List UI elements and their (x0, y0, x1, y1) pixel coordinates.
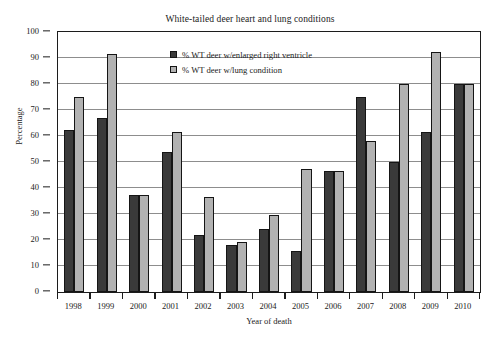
x-tick-label: 2002 (195, 301, 212, 311)
y-tick-label: 0 (35, 286, 39, 296)
x-tick-mark (447, 293, 448, 299)
y-tick-label: 60 (31, 130, 40, 140)
gridline (58, 187, 480, 188)
gridline (58, 83, 480, 84)
bar (431, 52, 441, 292)
legend-item[interactable]: % WT deer w/enlarged right ventricle (170, 47, 312, 62)
bar (74, 97, 84, 292)
x-tick-label: 2010 (454, 301, 471, 311)
y-tick-label: 70 (31, 104, 40, 114)
bar (421, 132, 431, 292)
bar (301, 169, 311, 292)
y-tick-mark (43, 212, 50, 213)
legend-item[interactable]: % WT deer w/lung condition (170, 62, 312, 77)
y-tick-label: 100 (26, 26, 39, 36)
x-axis-title: Year of death (57, 316, 481, 326)
x-tick-mark (57, 293, 58, 299)
bar (194, 235, 204, 292)
x-axis: 1998199920002001200220032004200520062007… (57, 293, 481, 315)
x-tick-mark (414, 293, 415, 299)
x-tick-label: 2009 (422, 301, 439, 311)
x-tick-label: 1998 (65, 301, 82, 311)
x-tick-mark (187, 293, 188, 299)
bar (162, 152, 172, 292)
bar (172, 132, 182, 292)
bar (399, 84, 409, 292)
bar (464, 84, 474, 292)
y-tick-mark (43, 56, 50, 57)
y-tick-mark (43, 290, 50, 291)
bar (97, 118, 107, 292)
legend-label: % WT deer w/lung condition (182, 65, 282, 75)
bar (139, 195, 149, 293)
y-tick-mark (43, 108, 50, 109)
bar (64, 130, 74, 293)
x-tick-label: 1999 (97, 301, 114, 311)
x-tick-mark (219, 293, 220, 299)
gridline (58, 135, 480, 136)
x-tick-label: 2000 (130, 301, 147, 311)
y-tick-mark (43, 30, 50, 31)
y-tick-label: 10 (31, 260, 40, 270)
bar (259, 229, 269, 292)
bar (226, 245, 236, 292)
gridline (58, 161, 480, 162)
bar (204, 197, 214, 292)
gridline (58, 109, 480, 110)
x-tick-mark (154, 293, 155, 299)
bar (129, 195, 139, 293)
bar (291, 251, 301, 292)
x-tick-mark (252, 293, 253, 299)
x-tick-label: 2004 (260, 301, 277, 311)
x-tick-label: 2001 (162, 301, 179, 311)
y-tick-label: 30 (31, 208, 40, 218)
y-tick-label: 50 (31, 156, 40, 166)
x-tick-mark (284, 293, 285, 299)
bar (324, 171, 334, 292)
legend-swatch-icon (170, 51, 177, 58)
bar (356, 97, 366, 292)
x-tick-mark (349, 293, 350, 299)
y-tick-label: 90 (31, 52, 40, 62)
legend-label: % WT deer w/enlarged right ventricle (182, 50, 312, 60)
bar (269, 215, 279, 292)
x-tick-mark (122, 293, 123, 299)
chart-title: White-tailed deer heart and lung conditi… (0, 14, 500, 24)
y-tick-mark (43, 186, 50, 187)
x-tick-mark (479, 293, 480, 299)
bar (107, 54, 117, 292)
x-tick-label: 2005 (292, 301, 309, 311)
chart-legend: % WT deer w/enlarged right ventricle% WT… (170, 47, 312, 77)
x-tick-mark (317, 293, 318, 299)
bar (237, 242, 247, 292)
x-tick-label: 2008 (389, 301, 406, 311)
y-tick-label: 40 (31, 182, 40, 192)
y-tick-label: 20 (31, 234, 40, 244)
y-axis: 0102030405060708090100 (0, 31, 50, 293)
y-tick-mark (43, 264, 50, 265)
y-axis-title: Percentage (14, 51, 24, 201)
y-tick-mark (43, 238, 50, 239)
x-tick-mark (89, 293, 90, 299)
bar (366, 141, 376, 292)
bar (334, 171, 344, 292)
x-tick-label: 2007 (357, 301, 374, 311)
x-tick-label: 2003 (227, 301, 244, 311)
chart-figure: White-tailed deer heart and lung conditi… (0, 0, 500, 338)
x-tick-label: 2006 (324, 301, 341, 311)
bar (454, 84, 464, 292)
bar (389, 162, 399, 292)
x-tick-mark (382, 293, 383, 299)
y-tick-mark (43, 82, 50, 83)
legend-swatch-icon (170, 66, 177, 73)
y-tick-mark (43, 160, 50, 161)
y-tick-label: 80 (31, 78, 40, 88)
y-tick-mark (43, 134, 50, 135)
